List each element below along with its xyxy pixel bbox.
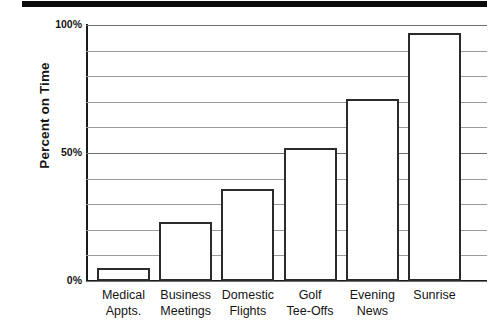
bar-series (86, 25, 487, 281)
chart-page: Percent on Time 0%50%100% MedicalAppts.B… (0, 0, 502, 335)
top-divider-rule (22, 1, 487, 7)
bar-2[interactable] (221, 189, 274, 281)
bar-3[interactable] (284, 148, 337, 281)
x-axis-label-5-line1: Sunrise (413, 288, 455, 302)
y-tick-label-50: 50% (61, 146, 82, 158)
x-axis-label-2-line1: Domestic (222, 288, 274, 302)
y-axis-title: Percent on Time (37, 36, 52, 196)
x-axis-label-0-line1: Medical (102, 288, 145, 302)
bar-5[interactable] (408, 33, 461, 281)
bar-1[interactable] (159, 222, 212, 281)
plot-area: 0%50%100% (86, 25, 487, 281)
x-axis-label-5: Sunrise (394, 287, 475, 303)
x-axis-label-4-line2: News (332, 303, 413, 319)
y-tick-label-100: 100% (55, 18, 82, 30)
x-axis-label-3-line1: Golf (299, 288, 322, 302)
x-axis-label-1-line1: Business (160, 288, 211, 302)
x-axis-label-4-line1: Evening (350, 288, 395, 302)
y-tick-label-0: 0% (67, 274, 82, 286)
bar-4[interactable] (346, 99, 399, 281)
bar-0[interactable] (97, 268, 150, 281)
x-axis-labels: MedicalAppts.BusinessMeetingsDomesticFli… (86, 287, 487, 333)
gridline-0: 0% (86, 281, 487, 282)
